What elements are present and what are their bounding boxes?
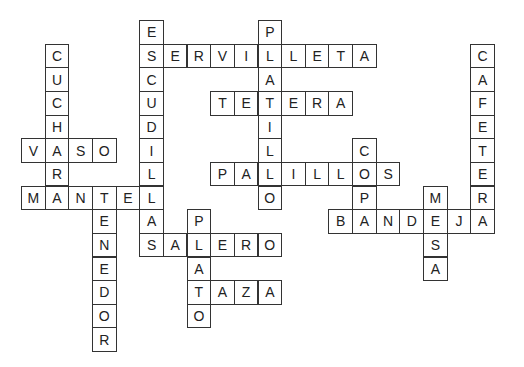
crossword-cell[interactable]: S (139, 44, 164, 69)
crossword-cell[interactable]: F (470, 91, 495, 116)
crossword-cell[interactable]: I (234, 44, 259, 69)
crossword-cell[interactable]: E (139, 20, 164, 45)
crossword-cell[interactable]: T (258, 91, 283, 116)
crossword-cell[interactable]: L (258, 162, 283, 187)
crossword-cell[interactable]: M (21, 186, 46, 211)
crossword-cell[interactable]: R (234, 233, 259, 258)
crossword-cell[interactable]: C (45, 91, 70, 116)
crossword-cell[interactable]: T (92, 186, 117, 211)
crossword-cell[interactable]: E (305, 44, 330, 69)
crossword-cell[interactable]: E (163, 44, 188, 69)
crossword-cell[interactable]: O (92, 138, 117, 163)
crossword-cell[interactable]: C (352, 138, 377, 163)
crossword-cell[interactable]: D (399, 209, 424, 234)
crossword-cell[interactable]: E (92, 209, 117, 234)
crossword-cell[interactable]: Z (234, 280, 259, 305)
crossword-cell[interactable]: O (258, 186, 283, 211)
crossword-cell[interactable]: N (376, 209, 401, 234)
crossword-cell[interactable]: D (92, 280, 117, 305)
crossword-cell[interactable]: A (258, 280, 283, 305)
crossword-cell[interactable]: L (139, 162, 164, 187)
crossword-cell[interactable]: U (139, 91, 164, 116)
crossword-cell[interactable]: C (470, 44, 495, 69)
crossword-cell[interactable]: A (470, 67, 495, 92)
crossword-cell[interactable]: L (187, 233, 212, 258)
crossword-cell[interactable]: E (92, 257, 117, 282)
crossword-cell[interactable]: L (328, 162, 353, 187)
crossword-cell[interactable]: S (423, 233, 448, 258)
crossword-board: ESCUDILLASERVILLETAPATILLOTEERACUCHARAVS… (0, 0, 524, 367)
crossword-cell[interactable]: O (258, 233, 283, 258)
crossword-cell[interactable]: E (281, 91, 306, 116)
crossword-cell[interactable]: S (68, 138, 93, 163)
crossword-cell[interactable]: J (447, 209, 472, 234)
crossword-cell[interactable]: A (423, 257, 448, 282)
crossword-cell[interactable]: A (210, 280, 235, 305)
crossword-cell[interactable]: I (139, 138, 164, 163)
crossword-cell[interactable]: E (116, 186, 141, 211)
crossword-cell[interactable]: T (470, 138, 495, 163)
crossword-cell[interactable]: L (305, 162, 330, 187)
crossword-cell[interactable]: I (281, 162, 306, 187)
crossword-cell[interactable]: D (139, 115, 164, 140)
crossword-cell[interactable]: P (210, 162, 235, 187)
crossword-cell[interactable]: C (45, 44, 70, 69)
crossword-cell[interactable]: U (45, 67, 70, 92)
crossword-cell[interactable]: E (210, 233, 235, 258)
crossword-cell[interactable]: P (187, 209, 212, 234)
crossword-cell[interactable]: A (234, 162, 259, 187)
crossword-cell[interactable]: E (470, 115, 495, 140)
crossword-cell[interactable]: T (210, 91, 235, 116)
crossword-cell[interactable]: V (21, 138, 46, 163)
crossword-cell[interactable]: S (139, 233, 164, 258)
crossword-cell[interactable]: A (328, 91, 353, 116)
crossword-cell[interactable]: N (92, 233, 117, 258)
crossword-cell[interactable]: R (45, 162, 70, 187)
crossword-cell[interactable]: A (163, 233, 188, 258)
crossword-cell[interactable]: L (139, 186, 164, 211)
crossword-cell[interactable]: S (376, 162, 401, 187)
crossword-cell[interactable]: R (92, 327, 117, 352)
crossword-cell[interactable]: R (187, 44, 212, 69)
crossword-cell[interactable]: A (187, 257, 212, 282)
crossword-cell[interactable]: E (470, 162, 495, 187)
crossword-cell[interactable]: T (328, 44, 353, 69)
crossword-cell[interactable]: E (423, 209, 448, 234)
crossword-cell[interactable]: A (470, 209, 495, 234)
crossword-cell[interactable]: A (139, 209, 164, 234)
crossword-cell[interactable]: L (281, 44, 306, 69)
crossword-cell[interactable]: P (352, 186, 377, 211)
crossword-cell[interactable]: N (68, 186, 93, 211)
crossword-cell[interactable]: I (258, 115, 283, 140)
crossword-cell[interactable]: M (423, 186, 448, 211)
crossword-cell[interactable]: R (470, 186, 495, 211)
crossword-cell[interactable]: O (187, 304, 212, 329)
crossword-cell[interactable]: L (258, 138, 283, 163)
crossword-cell[interactable]: A (352, 209, 377, 234)
crossword-cell[interactable]: V (210, 44, 235, 69)
crossword-cell[interactable]: O (92, 304, 117, 329)
crossword-cell[interactable]: E (234, 91, 259, 116)
crossword-cell[interactable]: R (305, 91, 330, 116)
crossword-cell[interactable]: A (45, 186, 70, 211)
crossword-cell[interactable]: C (139, 67, 164, 92)
crossword-cell[interactable]: H (45, 115, 70, 140)
crossword-cell[interactable]: T (187, 280, 212, 305)
crossword-cell[interactable]: O (352, 162, 377, 187)
crossword-cell[interactable]: A (352, 44, 377, 69)
crossword-cell[interactable]: B (328, 209, 353, 234)
crossword-cell[interactable]: A (45, 138, 70, 163)
crossword-cell[interactable]: L (258, 44, 283, 69)
crossword-cell[interactable]: P (258, 20, 283, 45)
crossword-cell[interactable]: A (258, 67, 283, 92)
